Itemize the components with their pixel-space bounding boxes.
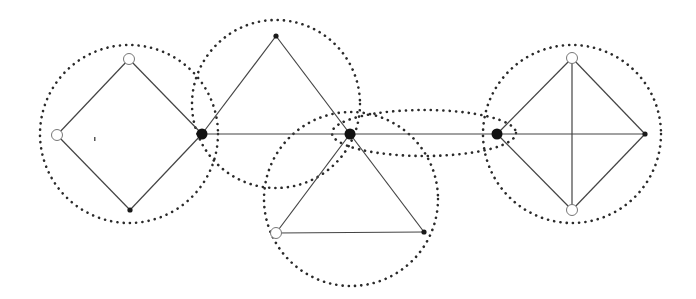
vertex-a2 — [52, 130, 63, 141]
vertex-e3 — [642, 131, 647, 136]
edge-e2-c3 — [497, 134, 572, 210]
vertex-d1 — [271, 228, 282, 239]
block-graph-diagram — [0, 0, 696, 299]
vertex-a3 — [127, 207, 132, 212]
vertex-e2 — [567, 205, 578, 216]
edge-a3-c1 — [130, 134, 202, 210]
edge-d2-c2 — [350, 134, 424, 232]
block-triangle-top-outline — [192, 20, 360, 188]
edge-e1-e3 — [572, 58, 645, 134]
edge-c2-d1 — [276, 134, 350, 233]
cut-vertex-c2 — [345, 129, 356, 140]
edge-c1-b1 — [202, 36, 276, 134]
vertex-a1 — [124, 54, 135, 65]
edge-e3-e2 — [572, 134, 645, 210]
stray-mark — [94, 137, 96, 141]
vertex-b1 — [273, 33, 278, 38]
edge-d1-d2 — [276, 232, 424, 233]
vertex-d2 — [421, 229, 426, 234]
vertex-e1 — [567, 53, 578, 64]
edge-b1-c2 — [276, 36, 350, 134]
edge-a1-a2 — [57, 59, 129, 135]
stray-mark — [94, 137, 96, 141]
cut-vertex-c1 — [197, 129, 208, 140]
block-diamond-left-outline — [40, 45, 218, 223]
edge-c3-e1 — [497, 58, 572, 134]
cut-vertex-c3 — [492, 129, 503, 140]
